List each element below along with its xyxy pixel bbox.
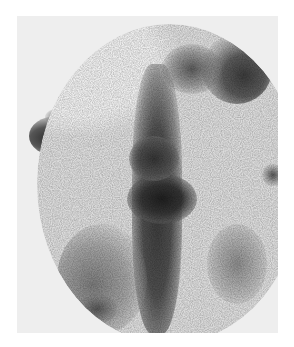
grain-texture	[37, 24, 278, 333]
scan-field	[37, 24, 278, 333]
scan-image-frame	[17, 16, 278, 333]
